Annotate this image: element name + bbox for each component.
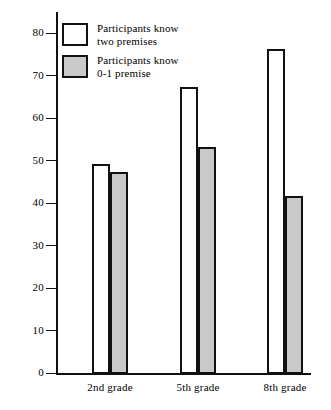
y-axis-tick-label: 0 — [2, 367, 44, 378]
y-axis-tick-label: 40 — [2, 197, 44, 208]
y-axis-tick — [46, 330, 57, 331]
white-square-icon — [62, 23, 88, 46]
y-axis-tick-label: 10 — [2, 325, 44, 336]
y-axis-tick-label: 80 — [2, 27, 44, 38]
y-axis-tick — [46, 288, 57, 289]
bar — [110, 172, 128, 374]
legend-item-known-two: Participants know two premises — [62, 22, 179, 47]
grey-square-icon — [62, 55, 88, 78]
legend-item-known-two-label: Participants know two premises — [97, 22, 179, 47]
bar — [198, 147, 216, 374]
bar — [180, 87, 198, 374]
y-axis-tick — [46, 33, 57, 34]
bar-chart: 01020304050607080 2nd grade5th grade8th … — [0, 0, 331, 410]
y-axis-tick — [46, 75, 57, 76]
y-axis-tick — [46, 160, 57, 161]
y-axis-tick-label: 60 — [2, 112, 44, 123]
y-axis-tick-label: 70 — [2, 70, 44, 81]
legend-label-line-2: two premises — [97, 35, 179, 48]
x-axis-category-label: 5th grade — [158, 381, 238, 393]
chart-legend: Participants know two premises Participa… — [62, 22, 179, 86]
y-axis-tick-label: 30 — [2, 240, 44, 251]
y-axis-tick — [46, 373, 57, 374]
bar — [92, 164, 110, 374]
x-axis-category-label: 8th grade — [245, 381, 325, 393]
y-axis-tick-label: 50 — [2, 155, 44, 166]
y-axis-tick — [46, 203, 57, 204]
legend-label-line-1: Participants know — [97, 22, 179, 35]
x-axis-category-label: 2nd grade — [70, 381, 150, 393]
legend-label-line-1: Participants know — [97, 54, 179, 67]
bar — [267, 49, 285, 374]
y-axis-tick-label: 20 — [2, 282, 44, 293]
legend-label-line-2: 0-1 premise — [97, 67, 179, 80]
legend-item-known-partial: Participants know 0-1 premise — [62, 54, 179, 79]
y-axis-tick — [46, 118, 57, 119]
bar — [285, 196, 303, 374]
y-axis-tick — [46, 245, 57, 246]
legend-item-known-partial-label: Participants know 0-1 premise — [97, 54, 179, 79]
